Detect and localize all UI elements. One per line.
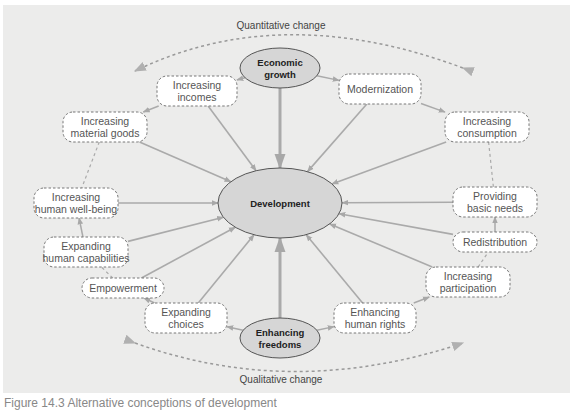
arrow-enhancing-human-rights-to-development [306,235,362,303]
arrow-economic-growth-to-modernization [317,76,339,81]
arrow-increasing-incomes-to-development [208,106,256,171]
expanding-human-capabilities-label-line: human capabilities [43,252,130,264]
arrow-expanding-human-capabilities-to-development [128,217,223,241]
quantitative-change-label: Quantitative change [237,20,326,31]
development-label-line: Development [250,198,310,209]
qualitative-change-label: Qualitative change [240,374,323,385]
increasing-material-goods-label-line: Increasing [81,115,130,127]
empowerment-node: Empowerment [82,278,164,298]
arrow-providing-basic-needs-to-development [342,202,453,203]
dashed-link-increasing-consumption-providing-basic-needs [489,142,494,187]
arrow-enhancing-freedoms-to-expanding-choices [227,327,243,330]
expanding-choices-label-line: Expanding [161,306,211,318]
increasing-participation-label-line: participation [440,282,497,294]
enhancing-human-rights-label-line: human rights [345,318,406,330]
increasing-human-well-being-label-line: Increasing [52,191,101,203]
providing-basic-needs-node: Providingbasic needs [453,187,537,217]
arrow-enhancing-freedoms-to-enhancing-human-rights [317,327,334,331]
arrow-modernization-to-increasing-consumption [421,104,445,113]
expanding-human-capabilities-label-line: Expanding [61,240,111,252]
dashed-link-empowerment-expanding-human-capabilities [101,267,112,278]
development-diagram: Quantitative change Qualitative change D… [3,5,570,393]
providing-basic-needs-label-line: Providing [473,190,517,202]
dashed-link-increasing-material-goods-increasing-human-well-being [82,142,100,188]
increasing-material-goods-node: Increasingmaterial goods [63,112,147,142]
increasing-human-well-being-label-line: human well-being [35,203,117,215]
increasing-incomes-node: Increasingincomes [157,76,237,106]
enhancing-human-rights-label-line: Enhancing [350,306,400,318]
expanding-human-capabilities-node: Expandinghuman capabilities [43,237,130,267]
arrow-increasing-material-goods-to-development [140,142,231,182]
arrow-expanding-choices-to-empowerment [144,298,155,303]
arrow-expanding-human-capabilities-to-increasing-human-well-being [79,218,83,237]
arrow-redistribution-to-development [339,214,453,235]
arrow-modernization-to-development [308,104,367,172]
redistribution-label-line: Redistribution [463,236,527,248]
increasing-material-goods-label-line: material goods [71,127,140,139]
increasing-human-well-being-node: Increasinghuman well-being [34,188,118,218]
increasing-incomes-label-line: incomes [177,91,216,103]
arrow-increasing-consumption-to-development [332,142,446,184]
arrow-increasing-incomes-to-increasing-material-goods [143,106,158,112]
figure-caption: Figure 14.3 Alternative conceptions of d… [4,396,277,412]
enhancing-human-rights-node: Enhancinghuman rights [334,303,416,333]
diagram-panel: Quantitative change Qualitative change D… [3,5,570,393]
increasing-consumption-label-line: Increasing [463,115,512,127]
arrow-increasing-participation-to-development [330,224,433,267]
increasing-participation-node: Increasingparticipation [426,267,510,297]
arrow-enhancing-human-rights-to-increasing-participation [414,297,430,303]
economic-growth-label-line: growth [264,69,296,80]
redistribution-node: Redistribution [453,232,537,252]
modernization-node: Modernization [339,74,421,104]
increasing-consumption-label-line: consumption [457,127,517,139]
enhancing-freedoms-label-line: Enhancing [256,327,305,338]
enhancing-freedoms-label-line: freedoms [259,339,302,350]
increasing-participation-label-line: Increasing [444,270,493,282]
modernization-label-line: Modernization [347,83,413,95]
nodes-layer: DevelopmentEconomicgrowthEnhancingfreedo… [34,48,537,358]
development-node: Development [218,168,342,238]
economic-growth-label-line: Economic [257,57,302,68]
expanding-choices-node: Expandingchoices [145,303,227,333]
increasing-incomes-label-line: Increasing [173,79,222,91]
arrow-expanding-choices-to-development [198,235,254,303]
dashed-link-increasing-participation-redistribution [478,252,488,267]
enhancing-freedoms-node: Enhancingfreedoms [240,318,320,358]
expanding-choices-label-line: choices [168,318,204,330]
arrow-economic-growth-to-increasing-incomes [237,78,245,80]
empowerment-label-line: Empowerment [89,282,157,294]
providing-basic-needs-label-line: basic needs [467,202,523,214]
economic-growth-node: Economicgrowth [240,48,320,88]
increasing-consumption-node: Increasingconsumption [445,112,529,142]
